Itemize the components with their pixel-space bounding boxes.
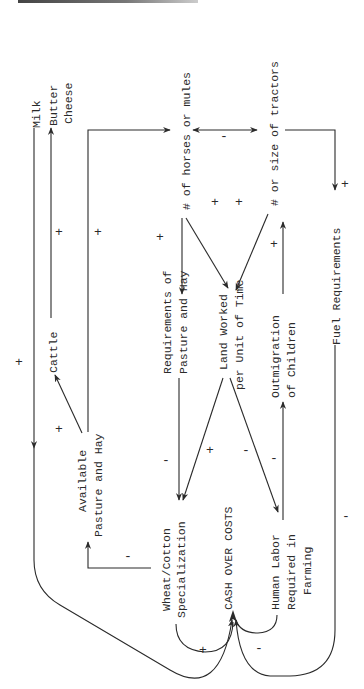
sign-plus: +	[235, 195, 243, 210]
arrowhead-cash	[229, 610, 237, 622]
svg-text:Outmigration: Outmigration	[269, 315, 282, 398]
sign-minus: -	[270, 451, 278, 466]
sign-plus: +	[211, 195, 219, 210]
sign-minus: -	[255, 641, 263, 656]
node-outmigration: Outmigration of Children	[269, 315, 298, 398]
svg-text:Requirements of: Requirements of	[161, 270, 174, 374]
svg-text:Pasture and Hay: Pasture and Hay	[92, 433, 105, 537]
node-land-worked: Land Worked per Unit of Time	[217, 279, 246, 390]
node-fuel-requirements: Fuel Requirements	[330, 228, 343, 345]
sign-plus: +	[15, 355, 23, 370]
node-milk-butter-cheese: Milk Butter Cheese	[30, 82, 75, 128]
node-wheat-cotton: Wheat/Cotton Specialization	[160, 521, 188, 618]
link-horses-land	[186, 218, 228, 288]
node-butter: Butter	[47, 85, 60, 126]
node-available-pasture: Available Pasture and Hay	[76, 433, 105, 537]
sign-plus: +	[199, 643, 207, 658]
node-tractors: # or size of tractors	[268, 61, 281, 206]
sign-plus: +	[341, 177, 349, 192]
svg-text:Specialization: Specialization	[175, 521, 188, 618]
node-cheese: Cheese	[62, 82, 75, 124]
node-cattle: Cattle	[47, 331, 60, 373]
link-labor-cash	[236, 615, 277, 633]
svg-text:of Children: of Children	[285, 322, 298, 398]
link-tractors-fuel	[285, 130, 335, 190]
sign-plus: +	[55, 225, 63, 240]
sign-minus: -	[124, 549, 132, 564]
sign-minus: -	[342, 509, 350, 524]
causal-loop-diagram: Milk Butter Cheese Cattle Available Past…	[0, 0, 364, 689]
sign-plus: +	[156, 230, 164, 245]
node-cash-over-costs: CASH OVER COSTS	[222, 506, 235, 610]
node-human-labor: Human Labor Required in Farming	[269, 534, 314, 610]
svg-text:Required in: Required in	[285, 534, 298, 610]
svg-text:Farming: Farming	[301, 547, 314, 595]
svg-text:Land Worked: Land Worked	[217, 294, 230, 370]
sign-plus: +	[206, 443, 214, 458]
sign-minus: -	[162, 453, 170, 468]
sign-minus: -	[242, 443, 250, 458]
node-requirements-pasture: Requirements of Pasture and Hay	[161, 270, 190, 374]
sign-minus: -	[220, 129, 228, 144]
svg-text:Wheat/Cotton: Wheat/Cotton	[160, 528, 173, 611]
link-available-horses	[88, 130, 170, 432]
svg-text:Pasture and Hay: Pasture and Hay	[177, 270, 190, 374]
sign-plus: +	[55, 422, 63, 437]
link-land-wheat	[183, 378, 223, 500]
svg-text:per Unit of Time: per Unit of Time	[233, 279, 246, 390]
svg-text:Human Labor: Human Labor	[269, 534, 282, 610]
sign-plus: +	[94, 225, 102, 240]
sign-plus: +	[270, 237, 278, 252]
node-horses-mules: # of horses or mules	[180, 72, 193, 210]
svg-text:Available: Available	[76, 450, 89, 512]
link-wheat-available	[88, 542, 151, 568]
link-tractors-land	[236, 214, 268, 290]
node-milk: Milk	[30, 100, 43, 128]
